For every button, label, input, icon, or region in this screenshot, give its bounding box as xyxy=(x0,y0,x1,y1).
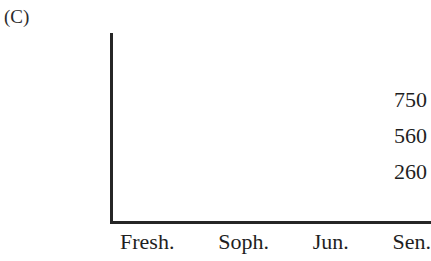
x-axis-label-group: Fresh. Soph. Jun. Sen. xyxy=(120,228,431,258)
x-axis-line xyxy=(110,221,431,224)
y-axis-tick-label: 560 xyxy=(327,124,431,148)
y-axis-tick-label: 260 xyxy=(327,160,431,184)
y-axis-line xyxy=(110,33,113,224)
figure-panel-c: (C) 750 560 260 Fresh. Soph. Jun. Sen. xyxy=(0,0,431,261)
x-axis-tick-label: Sen. xyxy=(393,228,431,255)
x-axis-tick-label: Fresh. xyxy=(120,228,174,255)
x-axis-tick-label: Soph. xyxy=(218,228,269,255)
x-axis-tick-label: Jun. xyxy=(313,228,349,255)
panel-label: (C) xyxy=(4,6,29,28)
y-axis-tick-label: 750 xyxy=(327,88,431,112)
